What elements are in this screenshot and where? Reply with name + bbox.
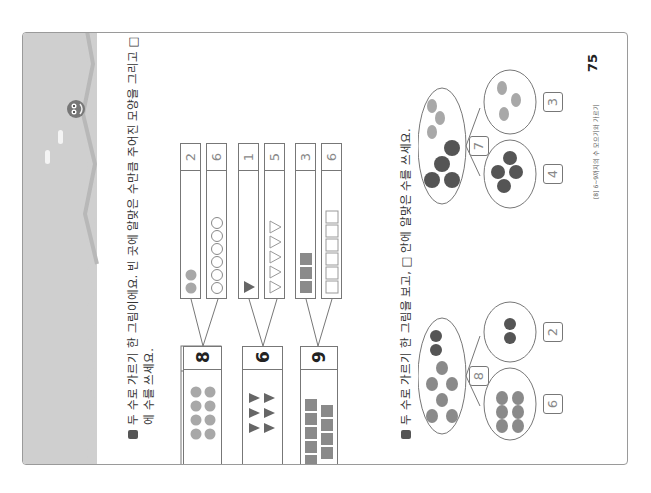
part-box: 4 [543, 164, 563, 184]
part-outline-circles [210, 204, 224, 294]
part-circles [184, 264, 198, 294]
part-number: 3 [296, 144, 315, 171]
problem-marker-icon [401, 430, 411, 439]
part-box-a: 2 [180, 143, 201, 299]
part-box: 3 [543, 92, 563, 112]
part-number: 6 [322, 144, 341, 171]
page-number: 75 [585, 54, 600, 72]
total-box: 8 [469, 366, 489, 386]
part-squares [299, 248, 313, 294]
total-box: 7 [469, 136, 489, 156]
part-box: 2 [543, 322, 563, 342]
part-number: 5 [265, 144, 284, 171]
cloud-decoration [58, 130, 63, 144]
footer-caption: [8] 6~9까지의 수 모으기와 가르기 [591, 104, 600, 199]
problem2-instruction: 두 수로 가르기 한 그림을 보고, □ 안에 알맞은 수를 쓰세요. [398, 128, 414, 439]
part-box-b: 6 [206, 143, 227, 299]
part-outline-squares [325, 204, 339, 294]
part-triangle [242, 278, 256, 294]
problem1-instruction: 두 수로 가르기 한 그림이에요. 빈 곳에 알맞은 수만큼 주어진 모양을 그… [125, 32, 141, 439]
part-box-a: 1 [238, 143, 259, 299]
part-outline-triangles [268, 214, 282, 294]
part-number: 6 [207, 144, 226, 171]
problem-marker-icon [128, 430, 138, 439]
part-box: 6 [543, 394, 563, 414]
part-number: 1 [239, 144, 258, 171]
problem1-instruction-line2: 에 수를 쓰세요. [141, 348, 157, 425]
cloud-decoration [45, 150, 50, 164]
wavy-edge [81, 32, 101, 464]
part-number: 2 [181, 144, 200, 171]
part-box-b: 5 [264, 143, 285, 299]
worksheet-page: 두 수로 가르기 한 그림이에요. 빈 곳에 알맞은 수만큼 주어진 모양을 그… [22, 32, 628, 465]
part-box-b: 6 [321, 143, 342, 299]
part-box-a: 3 [295, 143, 316, 299]
mascot-icon [65, 98, 87, 120]
